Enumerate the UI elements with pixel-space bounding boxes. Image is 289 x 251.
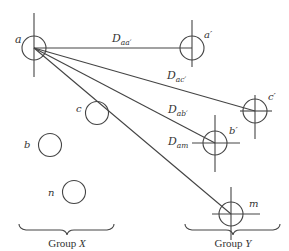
label-c-prime: c′: [268, 91, 277, 102]
line-d-ac-prime: [34, 48, 255, 111]
label-a: a: [15, 33, 22, 46]
element-a-prime: [180, 20, 204, 67]
element-a: [22, 13, 46, 77]
circle-c: [86, 102, 109, 125]
line-d-ab-prime: [34, 48, 215, 143]
label-d-ab-prime: Dab′: [167, 103, 188, 118]
circle-b: [39, 134, 62, 157]
label-d-am: Dam: [167, 135, 188, 150]
label-c: c: [76, 103, 82, 114]
label-b: b: [24, 139, 30, 150]
circle-n: [63, 181, 86, 204]
line-d-am: [34, 48, 231, 214]
label-d-aa-prime: Daa′: [111, 32, 132, 47]
label-a-prime: a′: [204, 29, 213, 40]
group-x-elements: [22, 13, 109, 204]
element-b-prime: [192, 115, 240, 172]
element-m: [212, 187, 260, 240]
label-n: n: [48, 187, 54, 198]
group-x-label: Group X: [48, 237, 87, 249]
group-y-label: Group Y: [215, 237, 254, 249]
label-m: m: [249, 198, 258, 209]
brace-group-x: [19, 224, 114, 235]
label-d-ac-prime: Dac′: [166, 69, 187, 84]
distance-diagram: a c b n a′ c′ b′ m Daa′ Dac′ Dab′ Dam Gr…: [0, 0, 289, 251]
element-labels: a c b n a′ c′ b′ m: [15, 29, 277, 209]
distance-labels: Daa′ Dac′ Dab′ Dam: [111, 32, 188, 150]
label-b-prime: b′: [229, 125, 238, 136]
distance-lines: [34, 48, 255, 214]
